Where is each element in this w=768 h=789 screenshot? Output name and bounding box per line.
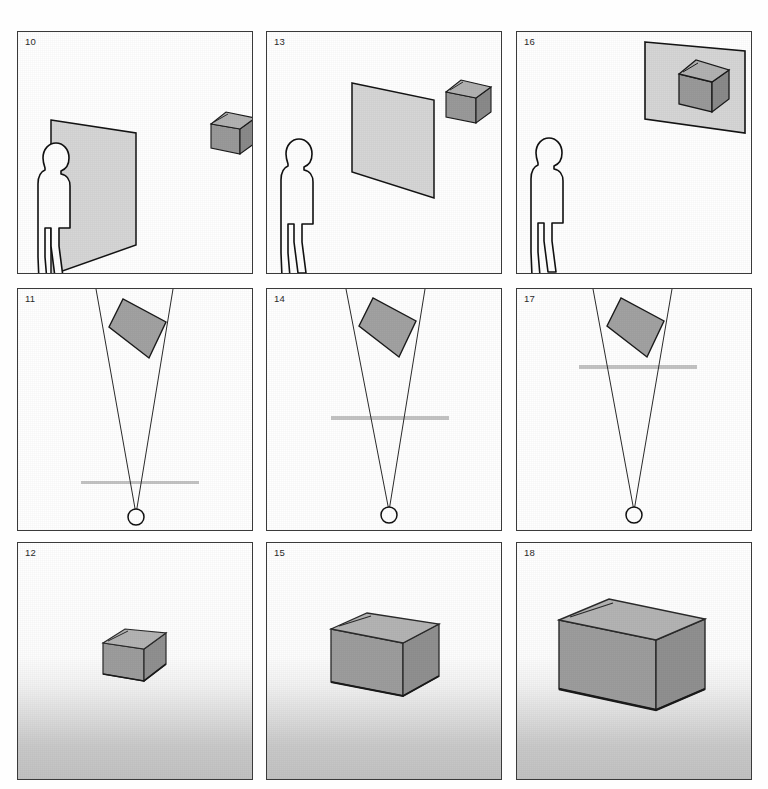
human-silhouette — [531, 138, 563, 274]
panel-number-18: 18 — [524, 547, 535, 558]
panel-18: 18 — [516, 542, 752, 780]
panel-17: 17 — [516, 288, 752, 531]
panel-15-artwork — [267, 543, 501, 779]
eye-circle — [381, 507, 397, 523]
panel-number-10: 10 — [25, 36, 36, 47]
tilted-rectangle — [109, 299, 166, 358]
panel-13-artwork — [267, 32, 501, 273]
figure-sheet: 10 13 — [0, 0, 768, 789]
box — [331, 613, 439, 696]
human-silhouette — [281, 139, 313, 274]
tilted-rectangle — [359, 298, 416, 357]
panel-number-14: 14 — [274, 293, 285, 304]
panel-12-artwork — [18, 543, 252, 779]
panel-10-artwork — [18, 32, 252, 273]
retina-section-line — [81, 481, 199, 484]
panel-11-artwork — [18, 289, 252, 530]
panel-number-17: 17 — [524, 293, 535, 304]
box — [103, 629, 166, 681]
panel-12: 12 — [17, 542, 253, 780]
panel-13: 13 — [266, 31, 502, 274]
small-box-icon — [446, 80, 491, 123]
retina-section-line — [579, 365, 697, 369]
panel-number-11: 11 — [25, 293, 35, 304]
small-box-icon — [679, 60, 729, 112]
eye-circle — [626, 507, 642, 523]
tilted-rectangle — [607, 298, 664, 357]
eye-circle — [128, 509, 144, 525]
panel-number-13: 13 — [274, 36, 285, 47]
panel-18-artwork — [517, 543, 751, 779]
panel-number-12: 12 — [25, 547, 36, 558]
panel-16-artwork — [517, 32, 751, 273]
panel-11: 11 — [17, 288, 253, 531]
panel-10: 10 — [17, 31, 253, 274]
panel-14: 14 — [266, 288, 502, 531]
retina-section-line — [331, 416, 449, 420]
small-box-icon — [211, 112, 253, 154]
panel-14-artwork — [267, 289, 501, 530]
panel-16: 16 — [516, 31, 752, 274]
panel-number-16: 16 — [524, 36, 535, 47]
panel-15: 15 — [266, 542, 502, 780]
tilted-plane — [352, 83, 434, 198]
box — [559, 599, 705, 710]
panel-number-15: 15 — [274, 547, 285, 558]
panel-17-artwork — [517, 289, 751, 530]
